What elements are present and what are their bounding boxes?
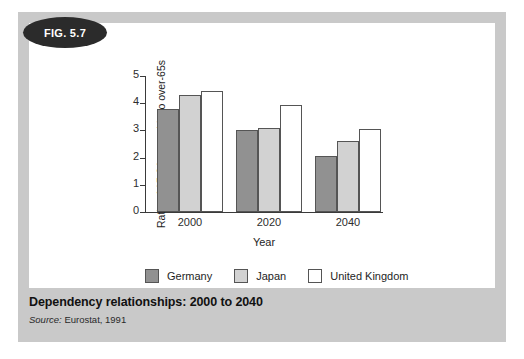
x-axis-tick-label: 2020 (229, 216, 309, 228)
y-axis-tick (140, 103, 145, 104)
y-axis-tick-label: 2 (123, 150, 139, 162)
bar-group (157, 76, 223, 212)
legend-item-uk[interactable]: United Kingdom (308, 269, 408, 283)
legend-swatch-uk (308, 269, 322, 283)
y-axis-tick-label: 0 (123, 204, 139, 216)
chart-canvas: Ratio of 15-64-year-olds to over-65s 012… (29, 23, 495, 288)
legend-swatch-japan (234, 269, 248, 283)
chart-legend: GermanyJapanUnited Kingdom (145, 269, 431, 283)
y-axis-tick-label: 3 (123, 122, 139, 134)
source-text: Eurostat, 1991 (64, 314, 126, 325)
figure-caption-title: Dependency relationships: 2000 to 2040 (29, 295, 495, 309)
y-axis-tick (140, 76, 145, 77)
legend-label-japan: Japan (256, 270, 286, 282)
y-axis-tick-label: 4 (123, 95, 139, 107)
y-axis-tick (140, 185, 145, 186)
x-axis-tick-label: 2000 (150, 216, 230, 228)
figure-block: FIG. 5.7 Ratio of 15-64-year-olds to ove… (18, 12, 506, 342)
bar-japan-2040 (337, 141, 359, 212)
bar-japan-2000 (179, 95, 201, 212)
bar-germany-2020 (236, 130, 258, 212)
bar-germany-2040 (315, 156, 337, 212)
y-axis-line (145, 76, 146, 212)
legend-item-germany[interactable]: Germany (145, 269, 212, 283)
bar-group (236, 76, 302, 212)
legend-item-japan[interactable]: Japan (234, 269, 286, 283)
bar-japan-2020 (258, 128, 280, 212)
x-axis-tick-label: 2040 (308, 216, 388, 228)
y-axis-tick-label: 5 (123, 68, 139, 80)
y-axis-tick (140, 130, 145, 131)
legend-label-uk: United Kingdom (330, 270, 408, 282)
figure-source-line: Source: Eurostat, 1991 (29, 314, 495, 325)
plot-area: Ratio of 15-64-year-olds to over-65s 012… (145, 76, 383, 212)
bar-uk-2040 (359, 129, 381, 212)
bar-group (315, 76, 381, 212)
y-axis-tick-label: 1 (123, 177, 139, 189)
bar-uk-2020 (280, 105, 302, 212)
y-axis-tick (140, 158, 145, 159)
bar-germany-2000 (157, 109, 179, 212)
source-prefix-label: Source: (29, 314, 62, 325)
legend-swatch-germany (145, 269, 159, 283)
figure-number-badge: FIG. 5.7 (23, 17, 107, 48)
caption-area: Dependency relationships: 2000 to 2040 S… (29, 295, 495, 325)
y-axis-tick (140, 212, 145, 213)
legend-label-germany: Germany (167, 270, 212, 282)
bar-uk-2000 (201, 91, 223, 212)
x-axis-line (145, 212, 383, 213)
figure-number-label: FIG. 5.7 (44, 27, 86, 39)
x-axis-title: Year (145, 236, 383, 248)
